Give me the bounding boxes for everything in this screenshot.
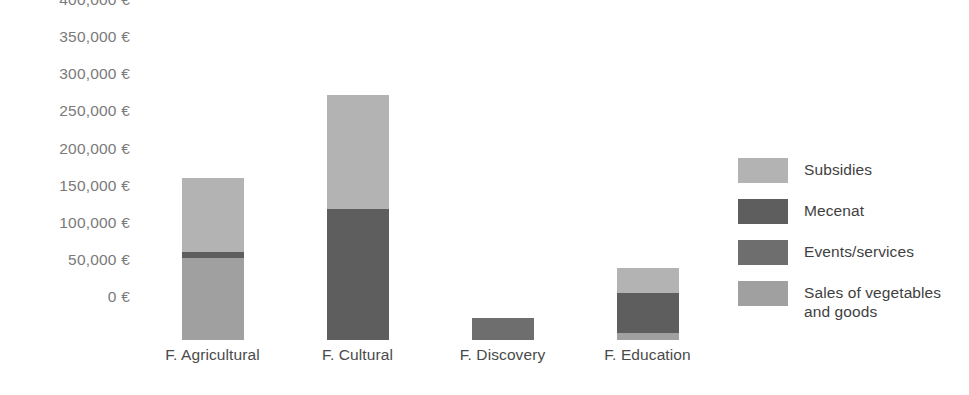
legend-item[interactable]: Sales of vegetables and goods (738, 281, 958, 322)
legend-swatch (738, 199, 788, 224)
y-axis-tick-label: 150,000 € (59, 177, 130, 195)
y-axis-tick-label: 300,000 € (59, 65, 130, 83)
bar-group: F. Discovery (472, 43, 534, 340)
y-axis-tick-label: 350,000 € (59, 28, 130, 46)
plot-area: F. AgriculturalF. CulturalF. DiscoveryF.… (140, 43, 720, 340)
bar-segment[interactable] (182, 178, 244, 252)
y-axis-tick-label: 100,000 € (59, 214, 130, 232)
bar-stack[interactable] (327, 95, 389, 340)
legend-label: Events/services (804, 240, 914, 261)
y-axis-tick-label: 50,000 € (68, 251, 130, 269)
bar-segment[interactable] (617, 293, 679, 333)
bar-group: F. Agricultural (182, 43, 244, 340)
legend-label: Sales of vegetables and goods (804, 281, 954, 322)
legend-swatch (738, 240, 788, 265)
bar-segment[interactable] (327, 209, 389, 340)
y-axis-tick-label: 400,000 € (59, 0, 130, 9)
y-axis: 0 €50,000 €100,000 €150,000 €200,000 €25… (0, 0, 130, 320)
bar-group: F. Education (617, 43, 679, 340)
y-axis-tick-label: 0 € (108, 288, 130, 306)
legend-item[interactable]: Subsidies (738, 158, 958, 183)
bar-segment[interactable] (472, 318, 534, 340)
legend-label: Subsidies (804, 158, 872, 179)
y-axis-tick-label: 200,000 € (59, 140, 130, 158)
bar-segment[interactable] (617, 333, 679, 340)
bar-stack[interactable] (182, 178, 244, 340)
x-axis-tick-label: F. Education (558, 346, 738, 364)
bar-segment[interactable] (617, 268, 679, 293)
y-axis-tick-label: 250,000 € (59, 102, 130, 120)
bar-segment[interactable] (182, 258, 244, 340)
bar-chart: 0 €50,000 €100,000 €150,000 €200,000 €25… (0, 0, 969, 395)
legend-item[interactable]: Events/services (738, 240, 958, 265)
legend: SubsidiesMecenatEvents/servicesSales of … (738, 158, 958, 338)
bar-stack[interactable] (472, 318, 534, 340)
legend-swatch (738, 158, 788, 183)
legend-label: Mecenat (804, 199, 864, 220)
bar-segment[interactable] (327, 95, 389, 209)
bar-group: F. Cultural (327, 43, 389, 340)
bar-stack[interactable] (617, 268, 679, 340)
legend-swatch (738, 281, 788, 306)
legend-item[interactable]: Mecenat (738, 199, 958, 224)
